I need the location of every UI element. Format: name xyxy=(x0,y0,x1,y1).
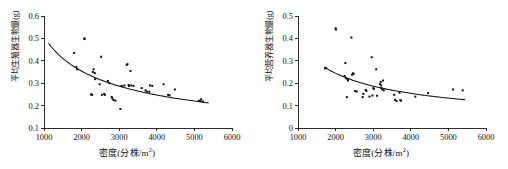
y-tick-label: 0.3 xyxy=(29,79,39,88)
x-tick-label: 3000 xyxy=(111,133,128,142)
scatter-point xyxy=(151,85,153,87)
x-axis-label: 密度(分株/m2) xyxy=(254,146,508,159)
scatter-point xyxy=(380,84,382,86)
scatter-point xyxy=(130,84,132,86)
y-tick-label: 0.5 xyxy=(283,12,293,21)
scatter-point xyxy=(325,67,327,69)
scatter-point xyxy=(114,100,116,102)
scatter-point xyxy=(126,63,128,65)
scatter-point xyxy=(94,72,96,74)
x-tick-label: 6000 xyxy=(478,133,495,142)
scatter-point xyxy=(362,93,364,95)
y-tick-label: 0.2 xyxy=(29,102,39,111)
scatter-point xyxy=(146,91,148,93)
scatter-point xyxy=(380,81,382,83)
scatter-point xyxy=(91,94,93,96)
scatter-point xyxy=(174,88,176,90)
y-tick-label: 0.4 xyxy=(283,34,294,43)
x-tick-label: 3000 xyxy=(365,133,382,142)
scatter-point xyxy=(346,96,348,98)
left-plot-area: 0.10.20.30.40.50.61000200030004000500060… xyxy=(0,0,254,169)
x-tick-label: 6000 xyxy=(224,133,241,142)
right-plot-area: 00.10.20.30.40.5100020003000400050006000 xyxy=(254,0,508,169)
scatter-point xyxy=(393,94,395,96)
scatter-point xyxy=(99,83,101,85)
x-axis-label-tail: ) xyxy=(152,148,155,158)
scatter-point xyxy=(113,99,115,101)
y-tick-label: 0.1 xyxy=(29,124,39,133)
scatter-point xyxy=(371,95,373,97)
y-tick-label: 0.3 xyxy=(283,57,293,66)
scatter-point xyxy=(141,87,143,89)
scatter-point xyxy=(169,94,171,96)
scatter-point xyxy=(200,98,202,100)
scatter-point xyxy=(75,66,77,68)
x-tick-label: 4000 xyxy=(148,133,165,142)
scatter-point xyxy=(365,90,367,92)
scatter-point xyxy=(101,94,103,96)
x-tick-label: 1000 xyxy=(290,133,307,142)
scatter-point xyxy=(73,52,75,54)
x-tick-label: 2000 xyxy=(73,133,90,142)
figure-two-panel-scatter: 0.10.20.30.40.50.61000200030004000500060… xyxy=(0,0,508,169)
scatter-point xyxy=(396,100,398,102)
scatter-point xyxy=(149,84,151,86)
y-axis-label: 平均生殖器生物量(g) xyxy=(8,0,23,131)
x-axis-label-tail: ) xyxy=(406,148,409,158)
scatter-point xyxy=(129,70,131,72)
scatter-point xyxy=(452,88,454,90)
scatter-point xyxy=(335,28,337,30)
x-tick-label: 4000 xyxy=(402,133,419,142)
scatter-point xyxy=(132,85,134,87)
scatter-point xyxy=(462,89,464,91)
y-tick-label: 0.2 xyxy=(283,79,293,88)
scatter-point xyxy=(199,100,201,102)
scatter-point xyxy=(383,89,385,91)
x-tick-label: 2000 xyxy=(327,133,344,142)
scatter-point xyxy=(163,83,165,85)
scatter-point xyxy=(356,90,358,92)
x-tick-label: 5000 xyxy=(440,133,457,142)
y-tick-label: 0.1 xyxy=(283,102,293,111)
scatter-point xyxy=(94,78,96,80)
scatter-point xyxy=(107,80,109,82)
scatter-point xyxy=(123,84,125,86)
scatter-point xyxy=(400,100,402,102)
scatter-point xyxy=(119,108,121,110)
scatter-points xyxy=(73,37,204,110)
scatter-point xyxy=(376,95,378,97)
fitted-curve xyxy=(49,43,209,103)
y-tick-label: 0.6 xyxy=(29,12,39,21)
y-tick-label: 0.4 xyxy=(29,57,40,66)
x-tick-label: 5000 xyxy=(186,133,203,142)
y-tick-label: 0.5 xyxy=(29,34,39,43)
scatter-point xyxy=(414,96,416,98)
scatter-point xyxy=(100,56,102,58)
scatter-point xyxy=(362,96,364,98)
scatter-point xyxy=(104,94,106,96)
x-tick-label: 1000 xyxy=(36,133,53,142)
x-axis-label-base: 密度(分株/m xyxy=(353,148,403,158)
reproductive-biomass-panel: 0.10.20.30.40.50.61000200030004000500060… xyxy=(0,0,254,169)
scatter-point xyxy=(128,85,130,87)
scatter-point xyxy=(427,92,429,94)
scatter-point xyxy=(93,68,95,70)
scatter-point xyxy=(399,92,401,94)
y-tick-label: 0 xyxy=(289,124,293,133)
scatter-point xyxy=(350,37,352,39)
scatter-point xyxy=(148,91,150,93)
scatter-point xyxy=(371,56,373,58)
scatter-point xyxy=(373,88,375,90)
scatter-point xyxy=(202,101,204,103)
vegetative-biomass-panel: 00.10.20.30.40.5100020003000400050006000… xyxy=(254,0,508,169)
scatter-point xyxy=(76,68,78,70)
scatter-point xyxy=(375,68,377,70)
scatter-point xyxy=(344,62,346,64)
y-axis-label: 平均营养器生物量(g) xyxy=(262,0,277,131)
scatter-point xyxy=(92,71,94,73)
scatter-point xyxy=(382,80,384,82)
scatter-point xyxy=(344,75,346,77)
scatter-point xyxy=(368,96,370,98)
scatter-point xyxy=(84,38,86,40)
scatter-point xyxy=(347,80,349,82)
